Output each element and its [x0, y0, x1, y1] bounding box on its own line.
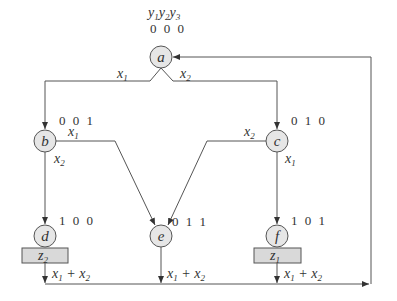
state-code-f: 1 0 1: [291, 213, 327, 228]
state-code-d: 1 0 0: [59, 213, 95, 228]
state-node-d: 1 0 0 d z2: [22, 213, 95, 265]
state-label-b: b: [41, 133, 49, 149]
edge-label-e-a: x1 + x2: [166, 266, 205, 283]
state-label-a: a: [157, 49, 165, 65]
state-code-a: 0 0 0: [150, 21, 186, 36]
state-node-f: 1 0 1 f z1: [254, 213, 327, 265]
state-node-b: 0 0 1 b: [34, 113, 95, 152]
state-node-e: 0 1 1 e: [150, 214, 208, 247]
edge-c-to-e: [168, 141, 266, 225]
edge-label-c-f: x1: [284, 151, 296, 168]
edge-label-f-a: x1 + x2: [283, 266, 322, 283]
state-label-c: c: [274, 133, 281, 149]
edge-label-d-a: x1 + x2: [51, 266, 90, 283]
edge-label-a-c: x2: [179, 66, 191, 83]
state-code-b: 0 0 1: [59, 113, 95, 128]
edge-label-c-e: x2: [243, 124, 255, 141]
state-node-a: 0 0 0 a: [150, 21, 186, 68]
return-bus: [45, 57, 371, 284]
state-variable-header: y1y2y3: [146, 5, 181, 22]
edge-label-b-d: x2: [53, 151, 65, 168]
edge-label-a-b: x1: [116, 66, 128, 83]
state-label-d: d: [41, 228, 49, 244]
state-code-c: 0 1 0: [291, 113, 327, 128]
state-label-e: e: [158, 228, 165, 244]
diagram-svg: y1y2y3 0 0 0 a x1 x2 0 0 1 b x1 x2 0 1 0…: [0, 0, 397, 301]
state-diagram: y1y2y3 0 0 0 a x1 x2 0 0 1 b x1 x2 0 1 0…: [0, 0, 397, 301]
state-node-c: 0 1 0 c: [266, 113, 327, 152]
edge-a-to-c: [161, 68, 277, 129]
state-code-e: 0 1 1: [172, 214, 208, 229]
